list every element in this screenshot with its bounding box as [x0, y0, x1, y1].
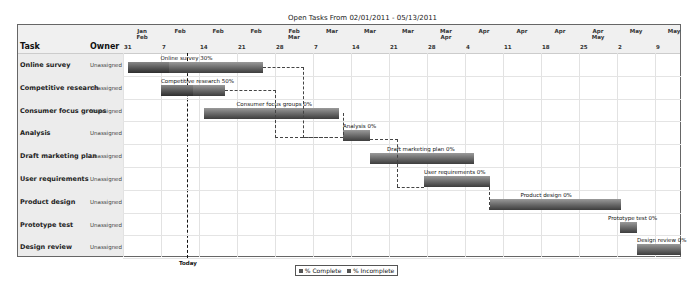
month-label: May: [617, 28, 655, 34]
gridline-horizontal: [123, 190, 681, 191]
month-label: Apr May: [579, 28, 617, 40]
task-owner: Unassigned: [90, 244, 122, 250]
gridline-vertical: [655, 53, 656, 257]
task-owner: Unassigned: [90, 176, 122, 182]
week-column-header: Apr4: [465, 25, 503, 53]
task-owner: Unassigned: [90, 199, 122, 205]
dependency-connector: [397, 187, 424, 188]
task-name: Competitive research: [20, 84, 99, 92]
gridline-vertical: [237, 53, 238, 257]
task-owner: Unassigned: [90, 153, 122, 159]
day-label: 31: [124, 44, 132, 50]
week-column-header: Apr11: [503, 25, 541, 53]
task-name: Design review: [20, 243, 72, 251]
timeline-header: Task Owner Jan Feb31Feb7Feb14Feb21Feb Ma…: [18, 25, 680, 54]
task-bar-label: Design review 0%: [637, 237, 686, 243]
task-bar[interactable]: [343, 130, 370, 141]
owner-column-header: Owner: [90, 42, 119, 51]
task-bar-label: Prototype test 0%: [608, 215, 657, 221]
legend: % Complete % Incomplete: [295, 265, 398, 276]
task-name: Analysis: [20, 129, 50, 137]
legend-swatch-incomplete-icon: [347, 269, 351, 273]
gridline-horizontal: [123, 258, 681, 259]
gridline-horizontal: [123, 121, 681, 122]
task-column-header: Task: [20, 42, 40, 51]
week-column-header: Feb7: [161, 25, 199, 53]
week-column-header: Mar14: [351, 25, 389, 53]
day-label: 2: [618, 44, 622, 50]
month-label: May: [655, 28, 693, 34]
day-label: 18: [542, 44, 550, 50]
task-bar-label: Analysis 0%: [343, 123, 376, 129]
week-column-header: Mar Apr28: [427, 25, 465, 53]
legend-item-complete: % Complete: [299, 267, 342, 274]
gridline-horizontal: [123, 235, 681, 236]
task-bar-label: User requirements 0%: [424, 169, 486, 175]
task-name: Product design: [20, 198, 75, 206]
task-bar[interactable]: [161, 85, 225, 96]
dependency-connector: [339, 113, 344, 136]
week-column-header: Feb14: [199, 25, 237, 53]
week-column-header: Mar21: [389, 25, 427, 53]
gridline-vertical: [313, 53, 314, 257]
gridline-vertical: [579, 53, 580, 257]
month-label: Jan Feb: [123, 28, 161, 40]
day-label: 4: [466, 44, 470, 50]
week-column-header: Feb21: [237, 25, 275, 53]
week-column-header: Mar7: [313, 25, 351, 53]
month-label: Mar Apr: [427, 28, 465, 40]
week-column-header: Feb Mar28: [275, 25, 313, 53]
dependency-connector: [303, 137, 343, 138]
month-label: Mar: [389, 28, 427, 34]
month-label: Apr: [465, 28, 503, 34]
week-column-header: Apr May25: [579, 25, 617, 53]
gridline-vertical: [123, 53, 124, 257]
day-label: 21: [390, 44, 398, 50]
dependency-connector: [225, 90, 276, 139]
legend-swatch-complete-icon: [299, 269, 303, 273]
task-progress-fill: [161, 85, 193, 96]
day-label: 25: [580, 44, 588, 50]
task-owner: Unassigned: [90, 222, 122, 228]
gantt-chart: Task Owner Jan Feb31Feb7Feb14Feb21Feb Ma…: [17, 24, 681, 257]
day-label: 21: [238, 44, 246, 50]
task-name: Online survey: [20, 61, 71, 69]
gridline-vertical: [503, 53, 504, 257]
day-label: 11: [504, 44, 512, 50]
month-label: Feb Mar: [275, 28, 313, 40]
task-owner: Unassigned: [90, 130, 122, 136]
month-label: Apr: [503, 28, 541, 34]
task-bar[interactable]: [620, 222, 637, 233]
task-bar-label: Product design 0%: [521, 192, 572, 198]
task-bar[interactable]: [424, 176, 490, 187]
chart-title: Open Tasks From 02/01/2011 - 05/13/2011: [0, 14, 695, 22]
dependency-connector: [489, 187, 491, 210]
gridline-horizontal: [123, 144, 681, 145]
task-bar[interactable]: [490, 199, 621, 210]
gridline-vertical: [617, 53, 618, 257]
gridline-horizontal: [123, 167, 681, 168]
task-bar[interactable]: [128, 62, 263, 73]
gridline-vertical: [541, 53, 542, 257]
day-label: 28: [276, 44, 284, 50]
month-label: Mar: [351, 28, 389, 34]
day-label: 9: [656, 44, 660, 50]
task-name: Draft marketing plan: [20, 152, 97, 160]
day-label: 14: [200, 44, 208, 50]
task-bar[interactable]: [637, 244, 681, 255]
legend-item-incomplete: % Incomplete: [347, 267, 394, 274]
today-label: Today: [179, 260, 197, 266]
week-column-header: May9: [655, 25, 693, 53]
day-label: 7: [162, 44, 166, 50]
dependency-connector: [397, 164, 398, 187]
month-label: Feb: [161, 28, 199, 34]
task-owner: Unassigned: [90, 62, 122, 68]
week-column-header: Jan Feb31: [123, 25, 161, 53]
day-label: 28: [428, 44, 436, 50]
task-bar-label: Competitive research 50%: [161, 78, 234, 84]
week-column-header: May2: [617, 25, 655, 53]
month-label: Feb: [199, 28, 237, 34]
month-label: Mar: [313, 28, 351, 34]
month-label: Apr: [541, 28, 579, 34]
gridline-horizontal: [123, 99, 681, 100]
